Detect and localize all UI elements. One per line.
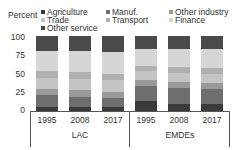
bar-segment <box>102 80 124 91</box>
legend-label: Finance <box>175 15 205 25</box>
legend-label: Other service <box>47 23 98 33</box>
bar-segment <box>201 36 223 49</box>
bar-segment <box>168 104 190 112</box>
bar-segment <box>201 49 223 68</box>
x-axis-line <box>30 111 230 112</box>
stacked-bar <box>168 36 190 111</box>
bar-segment <box>201 104 223 111</box>
legend-item-transport: Transport <box>106 16 148 24</box>
stacked-bar <box>36 36 58 111</box>
plot-area <box>30 36 230 111</box>
legend-swatch <box>169 18 173 22</box>
y-tick: 50 <box>5 69 25 79</box>
x-tick: 2017 <box>197 115 227 125</box>
bar-segment <box>135 86 157 101</box>
bar-segment <box>168 73 190 82</box>
bar-segment <box>69 79 91 90</box>
legend-swatch <box>41 18 45 22</box>
x-tick: 1995 <box>131 115 161 125</box>
legend-item-other-service: Other service <box>41 24 98 32</box>
legend-swatch <box>106 10 110 14</box>
bar-segment <box>102 98 124 108</box>
bar-segment <box>168 49 190 67</box>
group-separator <box>129 111 130 147</box>
bar-segment <box>102 52 124 74</box>
bar-segment <box>168 36 190 49</box>
x-tick: 2008 <box>164 115 194 125</box>
y-axis-label: Percent <box>8 11 37 19</box>
bar-segment <box>36 51 58 71</box>
bar-segment <box>69 51 91 72</box>
group-separator <box>30 111 31 147</box>
legend-swatch <box>41 26 45 30</box>
y-tick: 75 <box>5 50 25 60</box>
bar-segment <box>201 74 223 84</box>
bar-segment <box>168 88 190 104</box>
group-label-emdes: EMDEs <box>150 130 210 140</box>
bar-segment <box>201 89 223 104</box>
bar-segment <box>69 97 91 108</box>
stacked-bar <box>69 36 91 111</box>
stacked-bar <box>135 36 157 111</box>
x-tick: 1995 <box>32 115 62 125</box>
bar-segment <box>135 49 157 66</box>
bar-segment <box>36 36 58 51</box>
bar-segment <box>102 36 124 52</box>
legend-swatch <box>169 10 173 14</box>
bar-segment <box>69 36 91 51</box>
stacked-bar <box>201 36 223 111</box>
bar-segment <box>135 71 157 80</box>
bar-segment <box>135 36 157 49</box>
group-label-lac: LAC <box>50 130 110 140</box>
y-tick: 25 <box>5 87 25 97</box>
x-tick: 2008 <box>65 115 95 125</box>
stacked-bar <box>102 36 124 111</box>
y-tick: 100 <box>5 32 25 42</box>
bar-segment <box>69 90 91 97</box>
legend-item-finance: Finance <box>169 16 205 24</box>
bar-segment <box>135 101 157 111</box>
bar-segment <box>69 72 91 79</box>
x-tick: 2017 <box>98 115 128 125</box>
group-separator <box>229 111 230 147</box>
bar-segment <box>36 78 58 89</box>
bar-segment <box>102 74 124 81</box>
legend-label: Transport <box>112 15 148 25</box>
bar-segment <box>36 71 58 78</box>
legend-swatch <box>41 10 45 14</box>
bar-segment <box>36 95 58 106</box>
y-tick: 0 <box>5 105 25 115</box>
legend-swatch <box>106 18 110 22</box>
